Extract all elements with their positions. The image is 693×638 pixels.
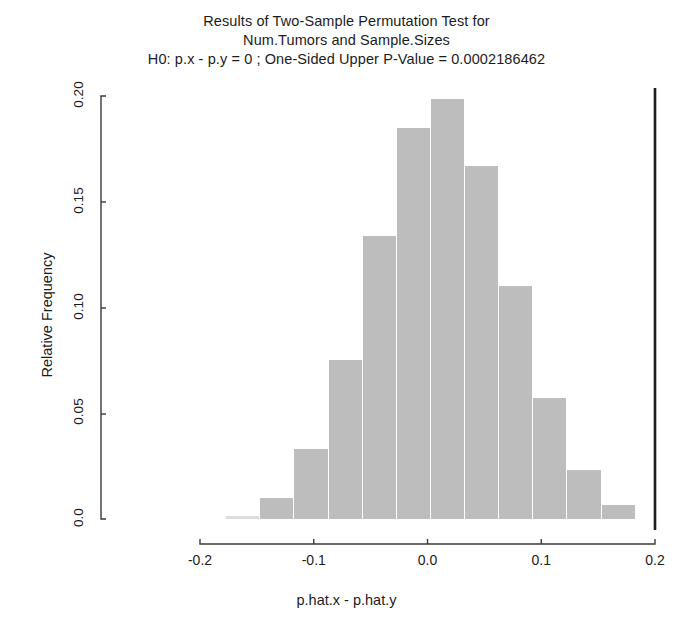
y-axis-tick-label: 0.10 — [71, 283, 86, 329]
x-axis-tick-label: -0.1 — [284, 552, 344, 568]
histogram-bar — [567, 470, 600, 519]
histogram-bar — [226, 516, 259, 519]
y-axis-title: Relative Frequency — [39, 235, 55, 395]
histogram-bar — [465, 166, 498, 519]
histogram-bar — [329, 360, 362, 519]
x-axis-tick-label: 0.2 — [625, 552, 685, 568]
plot-axes — [0, 0, 693, 638]
x-axis-tick-label: -0.2 — [170, 552, 230, 568]
permutation-test-histogram: Results of Two-Sample Permutation Test f… — [0, 0, 693, 638]
histogram-bar — [397, 128, 430, 519]
histogram-bar — [363, 236, 396, 519]
y-axis-tick-label: 0.20 — [71, 72, 86, 118]
plot-panel: 0.00.050.100.150.20 -0.2-0.10.00.10.2 Re… — [0, 0, 693, 638]
histogram-bar — [260, 498, 293, 519]
y-axis-tick-label: 0.15 — [71, 177, 86, 223]
y-axis-tick-label: 0.0 — [71, 495, 86, 541]
y-axis-tick-label: 0.05 — [71, 389, 86, 435]
x-axis-tick-label: 0.0 — [398, 552, 458, 568]
x-axis-tick-label: 0.1 — [511, 552, 571, 568]
histogram-bar — [431, 99, 464, 519]
x-axis-title: p.hat.x - p.hat.y — [0, 592, 693, 608]
histogram-bar — [294, 449, 327, 519]
histogram-bar — [602, 505, 635, 519]
histogram-bar — [533, 398, 566, 519]
histogram-bar — [499, 286, 532, 519]
